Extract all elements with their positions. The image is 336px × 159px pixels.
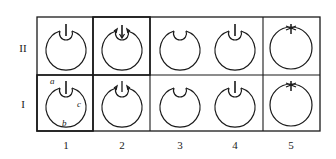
column-label-4: 4	[232, 139, 238, 151]
column-label-1: 1	[63, 139, 69, 151]
cell-II-5-star-circle-icon	[270, 24, 312, 69]
cell-II-4-loop-icon	[215, 24, 255, 70]
cell-II-3-loop-icon	[160, 31, 200, 70]
row-label-II: II	[19, 42, 26, 54]
column-label-3: 3	[177, 139, 183, 151]
diagram-figure: a c b	[0, 0, 336, 159]
cell-II-2-loop-arrows-icon	[102, 25, 142, 70]
row-label-I: I	[21, 98, 25, 110]
cell-I-4-loop-icon	[215, 81, 255, 127]
cell-II-1-loop-icon	[46, 24, 86, 70]
cell-I-3-loop-icon	[160, 88, 200, 127]
annotation-a: a	[50, 76, 55, 86]
annotation-b: b	[62, 118, 67, 128]
column-label-2: 2	[119, 139, 125, 151]
annotation-c: c	[77, 99, 81, 109]
cell-I-5-star-circle-icon	[270, 81, 312, 126]
column-label-5: 5	[288, 139, 294, 151]
grid	[37, 17, 320, 131]
row-I	[46, 81, 312, 127]
row-II	[46, 24, 312, 70]
cell-I-2-loop-arrows-icon	[102, 81, 142, 127]
